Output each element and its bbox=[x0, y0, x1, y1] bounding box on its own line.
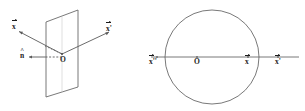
label-x-double-prime: x'' bbox=[149, 58, 157, 66]
label-x-prime-reflected-prime: ' bbox=[110, 24, 112, 33]
label-x-right: x bbox=[245, 58, 249, 66]
label-x-prime-right: x' bbox=[275, 58, 281, 66]
label-origin-O-right-text: O bbox=[194, 57, 200, 66]
label-x-double-prime-text: x bbox=[149, 58, 153, 66]
label-x-prime-reflected-text: x bbox=[106, 25, 110, 33]
figure-root: x x' n O x'' O x x' bbox=[0, 0, 305, 111]
label-x-incident: x bbox=[12, 23, 16, 31]
label-origin-O-left: O bbox=[60, 56, 66, 64]
normal-arrowhead bbox=[29, 56, 32, 59]
label-origin-O-left-text: O bbox=[60, 55, 66, 64]
label-n-hat-text: n bbox=[20, 52, 24, 60]
label-n-hat-normal: n bbox=[20, 52, 24, 60]
label-x-prime-right-text: x bbox=[275, 58, 279, 66]
left-panel-group bbox=[19, 10, 109, 97]
label-x-prime-reflected: x' bbox=[106, 25, 112, 33]
label-x-right-text: x bbox=[245, 58, 249, 66]
label-x-prime-right-prime: ' bbox=[279, 57, 281, 66]
reflected-vector-x-prime-line bbox=[62, 32, 109, 54]
label-origin-O-right: O bbox=[194, 58, 200, 66]
label-x-incident-text: x bbox=[12, 23, 16, 31]
label-x-double-prime-prime: '' bbox=[153, 57, 157, 66]
